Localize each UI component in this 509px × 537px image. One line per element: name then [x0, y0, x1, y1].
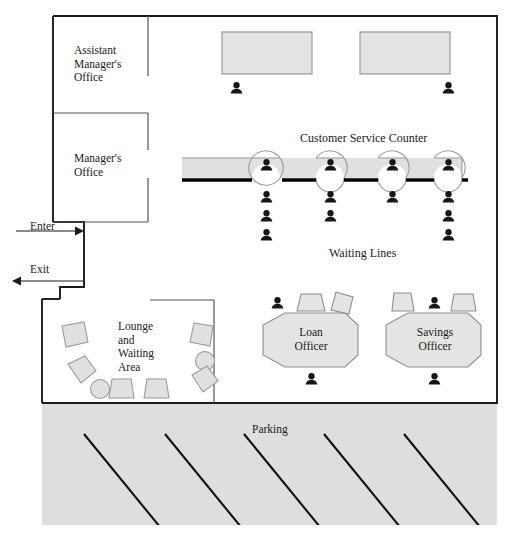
exit-label: Exit — [30, 263, 49, 277]
waiting-lines-label: Waiting Lines — [329, 246, 396, 260]
back-desk-right — [360, 32, 450, 74]
parking-area — [42, 403, 497, 527]
lounge-chair-3 — [109, 379, 134, 398]
customer-service-counter-label: Customer Service Counter — [300, 131, 427, 145]
lounge-chair-5 — [190, 323, 213, 346]
parking-label: Parking — [252, 423, 288, 437]
room-label-lounge-waiting-area: Lounge and Waiting Area — [118, 320, 154, 374]
back-desk-left — [222, 32, 312, 74]
customer-service-counter — [182, 151, 468, 192]
loan-officer-desk-label: Loan Officer — [283, 326, 339, 353]
lounge-table-1 — [91, 380, 110, 399]
lounge-chair-1 — [62, 322, 88, 347]
savings-officer-desk-label: Savings Officer — [404, 326, 466, 353]
loan-chair-1 — [297, 294, 325, 311]
exit-arrow-head — [12, 276, 21, 285]
lounge-chair-2 — [68, 356, 96, 383]
officer-chairs — [297, 292, 476, 314]
savings-chair-1 — [392, 293, 414, 311]
room-label-managers-office: Manager's Office — [74, 152, 121, 179]
enter-arrow-head — [75, 226, 84, 235]
loan-chair-2 — [331, 292, 353, 314]
lounge-chair-4 — [144, 379, 169, 398]
back-desks — [222, 32, 450, 74]
enter-label: Enter — [30, 220, 55, 234]
room-label-assistant-managers-office: Assistant Manager's Office — [74, 44, 121, 85]
savings-chair-2 — [451, 294, 476, 311]
entrance-arrows — [12, 226, 84, 285]
floor-plan-root: Assistant Manager's Office Manager's Off… — [0, 0, 509, 537]
